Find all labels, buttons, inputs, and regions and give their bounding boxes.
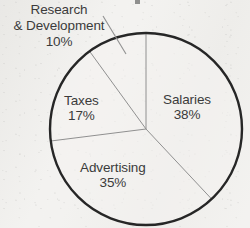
slice-label-rnd-name-line1: Research bbox=[31, 2, 88, 17]
slice-label-advertising-value: 35% bbox=[80, 175, 146, 190]
slice-label-rnd-value: 10% bbox=[0, 34, 118, 50]
slice-label-taxes-value: 17% bbox=[64, 108, 99, 123]
slice-label-advertising-name: Advertising bbox=[80, 160, 146, 175]
slice-label-advertising: Advertising 35% bbox=[80, 160, 146, 190]
pie-chart-figure: Salaries 38% Taxes 17% Advertising 35% R… bbox=[0, 0, 250, 228]
slice-label-taxes: Taxes 17% bbox=[64, 93, 99, 123]
slice-label-research-and-development: Research & Development 10% bbox=[0, 2, 118, 50]
slice-label-salaries-name: Salaries bbox=[163, 92, 211, 107]
slice-label-rnd-name-line2: & Development bbox=[0, 18, 118, 34]
slice-label-taxes-name: Taxes bbox=[64, 93, 99, 108]
slice-label-salaries: Salaries 38% bbox=[163, 92, 211, 122]
slice-label-salaries-value: 38% bbox=[163, 107, 211, 122]
